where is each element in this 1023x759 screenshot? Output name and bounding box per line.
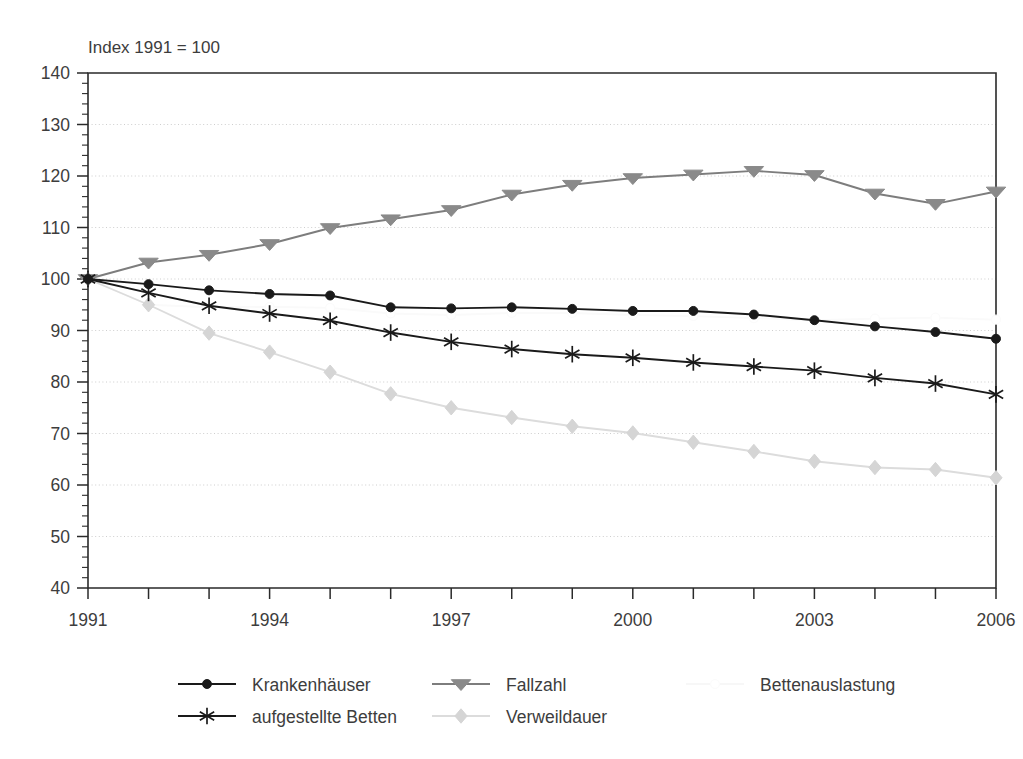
legend-marker — [203, 680, 212, 689]
x-tick-label: 2000 — [613, 610, 652, 630]
legend-label: aufgestellte Betten — [252, 707, 397, 727]
series-marker — [326, 291, 335, 300]
x-tick-label: 2006 — [977, 610, 1016, 630]
legend-label: Verweildauer — [506, 707, 607, 727]
series-marker — [507, 303, 516, 312]
series-marker — [749, 310, 758, 319]
series-marker — [568, 304, 577, 313]
legend-label: Bettenauslastung — [760, 675, 895, 695]
legend-label: Krankenhäuser — [252, 675, 371, 695]
series-marker — [386, 303, 395, 312]
y-tick-label: 90 — [51, 321, 71, 341]
x-tick-label: 1991 — [69, 610, 108, 630]
series-marker — [931, 313, 940, 322]
series-marker — [870, 322, 879, 331]
x-tick-label: 2003 — [795, 610, 834, 630]
series-marker — [265, 289, 274, 298]
series-marker — [205, 286, 214, 295]
series-marker — [689, 306, 698, 315]
y-tick-label: 80 — [51, 372, 71, 392]
series-marker — [84, 275, 93, 284]
legend-label: Fallzahl — [506, 675, 566, 695]
series-marker — [992, 315, 1001, 324]
series-marker — [326, 303, 335, 312]
y-tick-label: 120 — [41, 166, 70, 186]
y-tick-label: 50 — [51, 527, 71, 547]
chart-figure: Index 1991 = 100 40506070809010011012013… — [0, 0, 1023, 759]
line-chart: Index 1991 = 100 40506070809010011012013… — [0, 0, 1023, 759]
y-tick-label: 110 — [42, 218, 70, 238]
chart-title: Index 1991 = 100 — [88, 38, 220, 57]
y-tick-label: 60 — [51, 475, 71, 495]
x-tick-label: 1997 — [432, 610, 471, 630]
y-tick-label: 100 — [41, 269, 70, 289]
series-marker — [931, 328, 940, 337]
y-tick-label: 70 — [51, 424, 71, 444]
series-marker — [992, 334, 1001, 343]
series-marker — [144, 280, 153, 289]
series-marker — [628, 306, 637, 315]
chart-background — [0, 0, 1023, 759]
y-tick-label: 40 — [51, 578, 71, 598]
y-tick-label: 140 — [41, 63, 70, 83]
series-marker — [810, 316, 819, 325]
y-tick-label: 130 — [41, 115, 70, 135]
legend-marker — [711, 680, 720, 689]
x-tick-label: 1994 — [250, 610, 289, 630]
series-marker — [447, 304, 456, 313]
